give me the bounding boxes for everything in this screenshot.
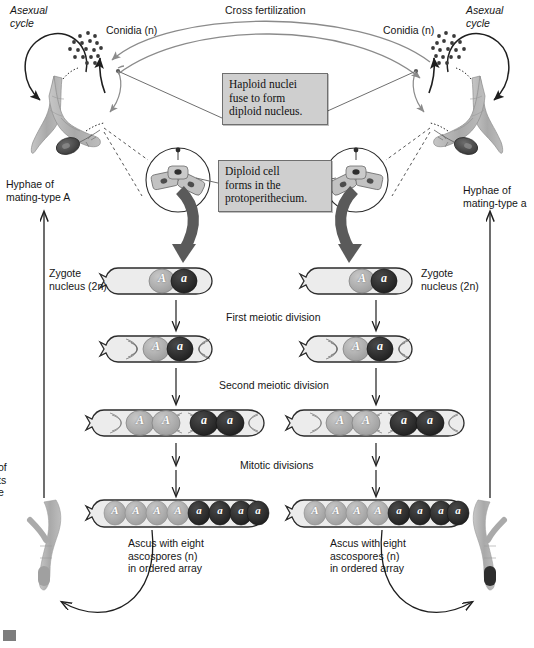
figure-canvas: Asexual cycle Asexual cycle Conidia (n) … bbox=[0, 0, 534, 648]
conidia-label-left: Conidia (n) bbox=[106, 24, 157, 37]
hypha-right bbox=[429, 34, 509, 158]
ascus-right bbox=[286, 500, 469, 527]
haploid-fusion-callout: Haploid nuclei fuse to form diploid nucl… bbox=[222, 73, 328, 125]
meiosis1-cell-left bbox=[100, 336, 212, 362]
hyphae-label-right: Hyphae of mating-type a bbox=[463, 184, 527, 209]
diploid-cell-callout: Diploid cell forms in the protoperitheci… bbox=[218, 160, 332, 212]
hypha-left bbox=[25, 34, 105, 158]
zygote-label-right: Zygote nucleus (2n) bbox=[421, 267, 479, 292]
protoperithecium-detail-right bbox=[324, 148, 388, 263]
first-meiotic-division-label: First meiotic division bbox=[226, 311, 321, 324]
meiosis1-cell-right bbox=[300, 336, 412, 362]
conidia-label-right: Conidia (n) bbox=[383, 24, 434, 37]
meiosis2-cell-left bbox=[86, 410, 264, 436]
ascus-caption-left: Ascus with eight ascospores (n) in order… bbox=[128, 537, 204, 575]
cross-fertilization-title: Cross fertilization bbox=[225, 4, 306, 17]
meiosis2-cell-right bbox=[286, 410, 464, 436]
zygote-cell-right bbox=[300, 268, 412, 294]
germinating-hypha-left bbox=[30, 500, 61, 590]
asexual-cycle-label-right: Asexual cycle bbox=[466, 4, 503, 29]
germinating-hypha-right bbox=[473, 500, 504, 590]
conidia-cluster-right bbox=[431, 31, 466, 65]
ascus-left bbox=[86, 500, 269, 527]
corner-registration-mark bbox=[3, 630, 16, 641]
hyphae-label-left: Hyphae of mating-type A bbox=[6, 178, 70, 203]
conidia-cluster-left bbox=[68, 31, 103, 65]
mitotic-divisions-label: Mitotic divisions bbox=[240, 459, 314, 472]
protoperithecium-detail-left bbox=[146, 148, 210, 263]
asexual-cycle-label-left: Asexual cycle bbox=[10, 4, 47, 29]
margin-cutoff-text: of ts e bbox=[0, 461, 7, 499]
ascus-caption-right: Ascus with eight ascospores (n) in order… bbox=[330, 537, 406, 575]
second-meiotic-division-label: Second meiotic division bbox=[219, 379, 329, 392]
zygote-cell-left bbox=[100, 268, 212, 294]
zygote-label-left: Zygote nucleus (2n) bbox=[49, 267, 107, 292]
